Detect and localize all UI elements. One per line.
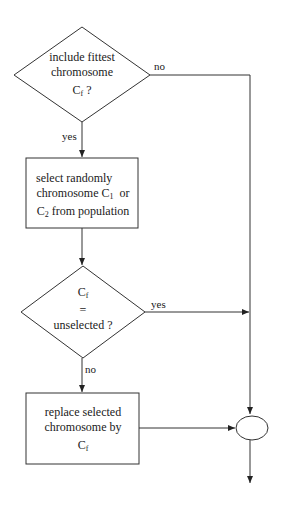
decision-unselected-eq: =	[33, 303, 133, 318]
process-select-random-text: select randomly chromosome C1 or C2 from…	[28, 171, 138, 222]
merge-connector-ellipse	[236, 416, 268, 440]
edge-label-no-2: no	[85, 363, 96, 375]
decision-unselected-symbol: Cf	[33, 285, 133, 303]
decision-include-fittest-symbol: Cf ?	[32, 83, 132, 101]
decision-unselected-tail: unselected ?	[33, 318, 133, 333]
process-select-random-line2: chromosome C1 or	[28, 186, 138, 204]
decision-include-fittest-text: include fittest chromosome Cf ?	[32, 50, 132, 101]
process-select-random-line3: C2 from population	[28, 204, 138, 222]
edge-no-to-merge	[150, 75, 250, 414]
process-replace-line1: replace selected	[28, 405, 138, 420]
process-select-random-line1: select randomly	[28, 171, 138, 186]
decision-include-fittest-line2: chromosome	[32, 65, 132, 80]
process-replace-text: replace selected chromosome by Cf	[28, 405, 138, 456]
decision-unselected-text: Cf = unselected ?	[33, 285, 133, 333]
process-replace-symbol: Cf	[28, 438, 138, 456]
edge-label-yes-1: yes	[62, 130, 77, 142]
edge-label-no-1: no	[154, 60, 165, 72]
edge-label-yes-2: yes	[151, 298, 166, 310]
decision-include-fittest-line1: include fittest	[32, 50, 132, 65]
process-replace-line2: chromosome by	[28, 420, 138, 435]
